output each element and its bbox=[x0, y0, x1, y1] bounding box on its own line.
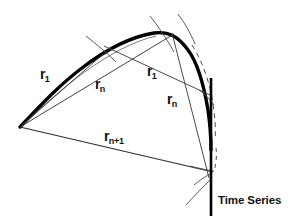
label-r1-left-sub: 1 bbox=[45, 74, 50, 84]
label-rn-left-sub: n bbox=[100, 84, 105, 94]
time-series-axis-label: Time Series bbox=[218, 195, 281, 207]
arc-tick-lower-b bbox=[194, 173, 212, 185]
label-rn-right: rn bbox=[167, 91, 178, 107]
label-r1-left: r1 bbox=[40, 66, 50, 82]
figure-container: r1 rn r1 rn rn+1 Time Series bbox=[0, 0, 288, 221]
label-rn-right-sub: n bbox=[172, 99, 177, 109]
label-rn-plus-1-sub: n+1 bbox=[109, 136, 124, 146]
arc-tick-lower-c bbox=[186, 180, 210, 205]
label-r1-right: r1 bbox=[147, 63, 157, 79]
geometric-diagram-svg bbox=[0, 0, 288, 221]
label-r1-right-sub: 1 bbox=[152, 71, 157, 81]
dashed-lower-arc bbox=[214, 148, 216, 172]
label-rn-plus-1: rn+1 bbox=[104, 128, 124, 144]
label-rn-left: rn bbox=[95, 76, 106, 92]
